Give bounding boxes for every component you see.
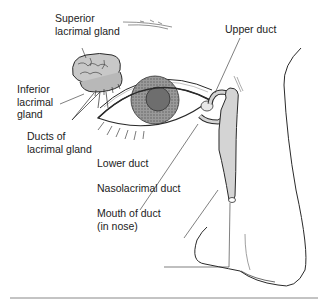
eyebrow <box>123 20 172 29</box>
label-mouth-of-duct: Mouth of duct (in nose) <box>97 207 161 232</box>
pupil <box>146 87 170 111</box>
nasolacrimal-duct <box>219 88 239 201</box>
label-ducts-of-lacrimal-gland: Ducts of lacrimal gland <box>27 130 92 155</box>
duct-mouth <box>229 198 236 203</box>
face-outline <box>195 48 306 286</box>
label-nasolacrimal-duct: Nasolacrimal duct <box>97 182 180 195</box>
label-lower-duct: Lower duct <box>97 157 148 170</box>
lacrimal-apparatus-diagram: Superior lacrimal gland Inferior lacrima… <box>0 0 326 304</box>
label-inferior-lacrimal-gland: Inferior lacrimal gland <box>17 83 53 121</box>
label-superior-lacrimal-gland: Superior lacrimal gland <box>55 12 120 37</box>
label-upper-duct: Upper duct <box>225 23 276 36</box>
